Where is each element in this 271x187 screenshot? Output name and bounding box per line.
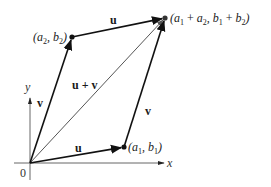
label-point-a2-b2: (a2, b2)	[33, 30, 67, 46]
point-a1-b1	[121, 144, 126, 149]
label-x-axis: x	[166, 156, 173, 170]
vector-u-top	[72, 19, 162, 37]
label-u-plus-v: u + v	[72, 78, 98, 92]
point-a2-b2	[69, 34, 74, 39]
label-v-right: v	[145, 104, 151, 118]
label-point-a1-b1: (a1, b1)	[128, 140, 162, 156]
label-y-axis: y	[24, 80, 31, 94]
label-point-sum: (a1 + a2, b1 + b2)	[170, 11, 250, 27]
point-sum	[162, 15, 167, 20]
label-origin: 0	[20, 166, 26, 180]
vector-addition-diagram: u u v v u + v x y 0 (a1, b1) (a2, b2) (a…	[0, 0, 271, 187]
label-v-left: v	[37, 96, 43, 110]
label-u-top: u	[110, 13, 117, 27]
label-u-bottom: u	[75, 141, 82, 155]
